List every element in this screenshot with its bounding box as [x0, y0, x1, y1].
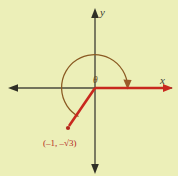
- x-axis-label: x: [159, 74, 165, 86]
- point-coordinate-label: (–1, –√3): [43, 138, 76, 148]
- theta-label: θ: [93, 75, 98, 85]
- angle-diagram: y x θ (–1, –√3): [0, 0, 178, 176]
- y-axis-label: y: [99, 6, 105, 18]
